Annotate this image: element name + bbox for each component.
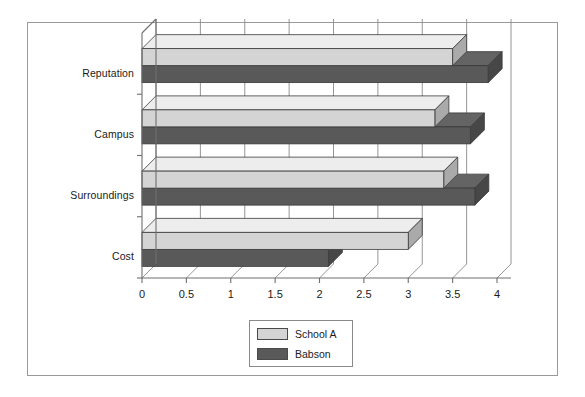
category-label-cost: Cost (44, 250, 134, 262)
x-tick-label: 4 (480, 288, 514, 300)
legend-entry-school-a: School A (257, 327, 336, 341)
legend-label-babson: Babson (295, 348, 331, 360)
category-label-reputation: Reputation (44, 67, 134, 79)
category-label-surroundings: Surroundings (44, 189, 134, 201)
x-tick-label: 0 (125, 288, 159, 300)
x-tick-label: 3.5 (436, 288, 470, 300)
x-tick-label: 2 (303, 288, 337, 300)
bar-school-a-cost (142, 218, 422, 249)
chart-legend: School A Babson (249, 320, 353, 367)
x-tick-label: 1.5 (258, 288, 292, 300)
legend-swatch-school-a (257, 328, 288, 340)
category-label-campus: Campus (44, 128, 134, 140)
x-tick-label: 0.5 (169, 288, 203, 300)
legend-swatch-babson (257, 348, 288, 360)
bar-series-group (142, 35, 502, 267)
bar-school-a-surroundings (142, 157, 458, 188)
legend-entry-babson: Babson (257, 347, 331, 361)
bar-school-a-reputation (142, 35, 467, 66)
x-tick-label: 2.5 (347, 288, 381, 300)
legend-label-school-a: School A (295, 328, 336, 340)
bar-school-a-campus (142, 96, 449, 127)
x-tick-label: 3 (391, 288, 425, 300)
x-tick-label: 1 (214, 288, 248, 300)
